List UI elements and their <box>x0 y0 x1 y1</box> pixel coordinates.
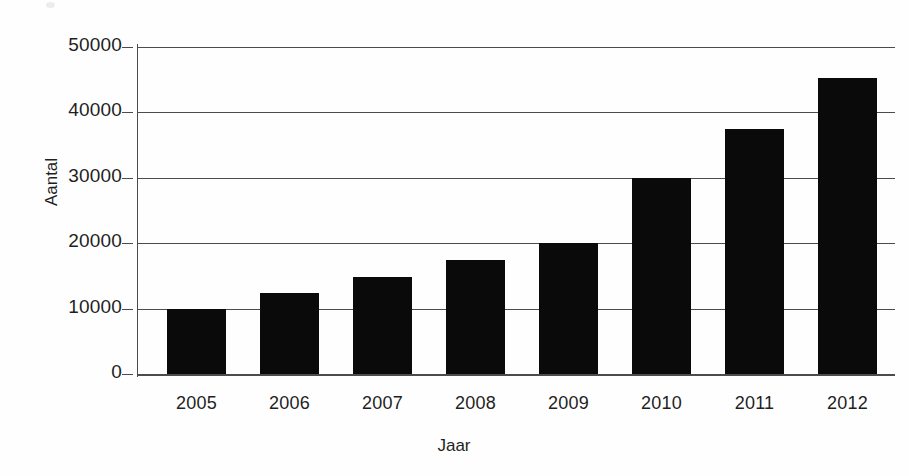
y-tick-label: 50000 <box>68 34 122 56</box>
bar-2012 <box>818 78 877 374</box>
plot-area <box>137 47 895 374</box>
x-tick-label-2007: 2007 <box>338 393 428 414</box>
y-tick-mark <box>122 243 133 244</box>
y-tick-mark <box>122 112 133 113</box>
bar-2008 <box>446 260 505 374</box>
y-tick-mark <box>122 309 133 310</box>
x-tick-label-2005: 2005 <box>152 393 242 414</box>
x-tick-label-2009: 2009 <box>524 393 614 414</box>
y-tick-label: 30000 <box>68 165 122 187</box>
gridline <box>137 47 895 48</box>
bar-chart-figure: Aantal 01000020000300004000050000 200520… <box>0 0 908 476</box>
y-tick-label: 0 <box>111 361 122 383</box>
scan-artifact-speck <box>46 2 55 8</box>
y-tick-mark <box>122 47 133 48</box>
bar-2005 <box>167 309 226 374</box>
y-tick-mark <box>122 374 133 375</box>
y-axis-title: Aantal <box>42 122 62 242</box>
x-tick-label-2006: 2006 <box>245 393 335 414</box>
bar-2011 <box>725 129 784 374</box>
x-axis-title: Jaar <box>0 436 908 456</box>
bar-2007 <box>353 277 412 374</box>
y-tick-mark <box>122 178 133 179</box>
x-axis-line <box>137 374 895 376</box>
x-tick-label-2012: 2012 <box>803 393 893 414</box>
bar-2006 <box>260 293 319 374</box>
bar-2009 <box>539 243 598 374</box>
x-tick-label-2011: 2011 <box>710 393 800 414</box>
y-tick-label: 20000 <box>68 230 122 252</box>
x-tick-label-2010: 2010 <box>617 393 707 414</box>
x-tick-label-2008: 2008 <box>431 393 521 414</box>
bar-2010 <box>632 178 691 374</box>
y-tick-label: 10000 <box>68 296 122 318</box>
gridline <box>137 112 895 113</box>
y-tick-label: 40000 <box>68 99 122 121</box>
